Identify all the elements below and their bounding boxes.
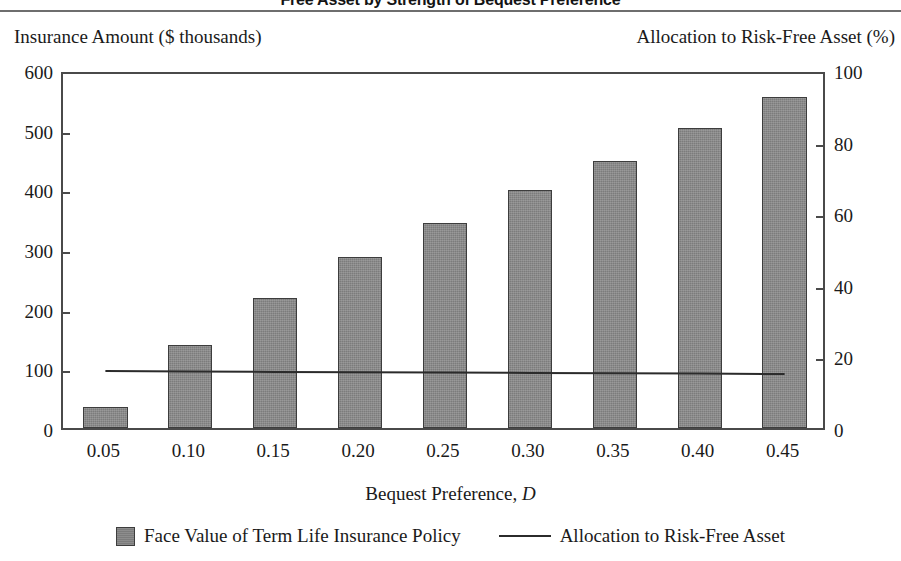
x-axis-tick-label: 0.30 <box>485 440 570 462</box>
page-title: Free Asset by Strength of Bequest Prefer… <box>0 0 901 9</box>
axis-tick-label: 80 <box>834 135 890 154</box>
bar <box>253 298 297 428</box>
legend-line-swatch-icon <box>499 535 551 537</box>
x-axis-title: Bequest Preference, D <box>0 483 901 505</box>
title-divider <box>0 10 901 12</box>
x-axis-title-text: Bequest Preference, <box>365 483 522 504</box>
x-axis-tick-label: 0.35 <box>570 440 655 462</box>
bar <box>83 407 127 428</box>
legend-item-label: Allocation to Risk-Free Asset <box>560 525 785 547</box>
legend-item-label: Face Value of Term Life Insurance Policy <box>144 525 461 547</box>
bar <box>338 257 382 428</box>
left-axis-caption: Insurance Amount ($ thousands) <box>14 26 261 48</box>
axis-tick-label: 100 <box>834 63 890 82</box>
bar <box>593 161 637 428</box>
left-axis-tick-labels: 0100200300400500600 <box>0 72 53 430</box>
legend-bar-swatch-icon <box>116 527 135 546</box>
x-axis-tick-label: 0.20 <box>316 440 401 462</box>
axis-tick-label: 500 <box>7 123 53 142</box>
x-axis-tick-label: 0.15 <box>231 440 316 462</box>
axis-tick-label: 200 <box>7 302 53 321</box>
axis-tick-label: 0 <box>834 421 890 440</box>
right-axis-caption: Allocation to Risk-Free Asset (%) <box>636 26 895 48</box>
axis-tick-label: 600 <box>7 63 53 82</box>
axis-tick-label: 100 <box>7 361 53 380</box>
x-axis-tick-label: 0.45 <box>740 440 825 462</box>
axis-tick-label: 60 <box>834 206 890 225</box>
chart-legend: Face Value of Term Life Insurance Policy… <box>0 525 901 547</box>
x-axis-tick-label: 0.10 <box>146 440 231 462</box>
axis-tick-label: 300 <box>7 242 53 261</box>
x-axis-tick-label: 0.05 <box>61 440 146 462</box>
axis-tick-label: 20 <box>834 349 890 368</box>
x-axis-title-symbol: D <box>522 483 536 504</box>
bar-series <box>63 74 823 428</box>
bar <box>168 345 212 428</box>
legend-item-bar-series: Face Value of Term Life Insurance Policy <box>116 525 461 547</box>
legend-item-line-series: Allocation to Risk-Free Asset <box>499 525 785 547</box>
bar <box>508 190 552 428</box>
x-axis-tick-labels: 0.050.100.150.200.250.300.350.400.45 <box>61 440 825 468</box>
bar <box>762 97 806 428</box>
axis-tick-label: 400 <box>7 182 53 201</box>
plot-area <box>61 72 825 430</box>
right-axis-tick-labels: 020406080100 <box>834 72 896 430</box>
bar <box>678 128 722 428</box>
axis-tick-label: 40 <box>834 278 890 297</box>
x-axis-tick-label: 0.25 <box>401 440 486 462</box>
x-axis-tick-label: 0.40 <box>655 440 740 462</box>
bar <box>423 223 467 428</box>
axis-tick-label: 0 <box>7 421 53 440</box>
